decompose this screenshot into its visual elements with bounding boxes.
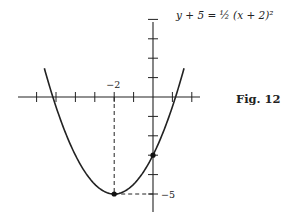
vertex-guides	[114, 97, 153, 194]
figure-caption: Fig. 12	[236, 92, 281, 106]
axes	[18, 19, 200, 212]
figure-canvas: y + 5 = ½ (x + 2)² −2 −5 Fig. 12	[0, 0, 289, 222]
y-intercept-point	[150, 153, 155, 158]
equation-label: y + 5 = ½ (x + 2)²	[175, 9, 274, 21]
y-tick-label: −5	[161, 189, 175, 200]
vertex-point	[112, 191, 117, 196]
x-tick-label: −2	[106, 79, 120, 90]
